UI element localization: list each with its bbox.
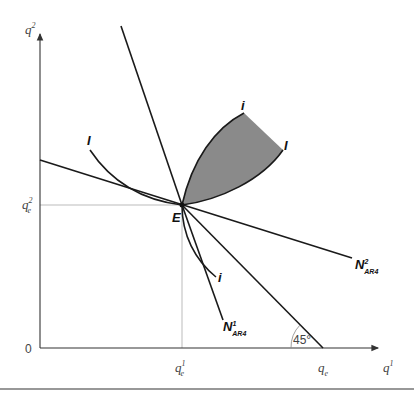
shaded-lens-region [182,113,283,205]
tick-qe1: q1e [175,359,186,378]
tick-qe: qe [318,360,329,378]
tick-qe2: q2e [22,196,33,215]
angle-label: 45° [293,333,311,347]
edgeworth-diagram: q2 q1 0 q2e q1e qe E I I i i N1AR4 N2AR4… [0,0,414,397]
curve-I-left-label: I [87,133,91,148]
curve-i-bottom-label: i [218,270,222,285]
n1-label: N1AR4 [223,319,246,337]
curve-i-top-label: i [241,98,245,113]
steep-line [121,26,182,205]
curve-I-right-label: I [284,138,288,153]
origin-label: 0 [25,342,32,356]
y-axis-label: q2 [25,21,36,37]
point-E-dot [180,203,185,208]
n2-label: N2AR4 [355,257,378,275]
point-E-label: E [172,210,181,225]
x-axis-label: q1 [383,359,394,375]
